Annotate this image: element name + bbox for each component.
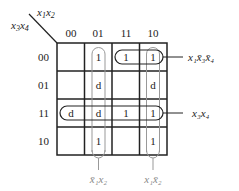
term-label-x1-x2bar: x₁x̄₂ — [143, 173, 162, 185]
col-header-01: 01 — [93, 27, 104, 39]
term-label-x1-x3bar-x4bar: x₁x̄₃x̄₄ — [187, 51, 214, 63]
term-label-x3-x4: x₃x₄ — [191, 107, 210, 119]
cell-r2-c2: 1 — [123, 107, 129, 119]
row-header-10: 10 — [38, 135, 50, 147]
col-header-00: 00 — [66, 27, 78, 39]
cell-r0-c3: 1 — [150, 51, 156, 63]
column-headers: 00 01 11 10 — [66, 27, 160, 39]
cell-r0-c2: 1 — [123, 51, 129, 63]
row-header-00: 00 — [38, 51, 50, 63]
term-label-x1bar-x2: x̄₁x₂ — [89, 173, 108, 185]
cell-r1-c1: d — [96, 79, 102, 91]
col-header-11: 11 — [121, 27, 132, 39]
row-variables-label: x3x4 — [10, 19, 29, 33]
row-headers: 00 01 11 10 — [38, 51, 50, 147]
cell-r2-c3: 1 — [150, 107, 156, 119]
cell-r1-c3: d — [150, 79, 156, 91]
cell-r3-c3: 1 — [150, 135, 156, 147]
cell-r2-c0: d — [68, 107, 74, 119]
row-header-11: 11 — [38, 107, 49, 119]
row-header-01: 01 — [38, 79, 49, 91]
karnaugh-map-diagram: x1x2 x3x4 00 01 11 10 00 01 11 10 — [0, 0, 239, 191]
cell-r0-c1: 1 — [96, 51, 102, 63]
col-variables-label: x1x2 — [36, 6, 55, 20]
col-header-10: 10 — [148, 27, 160, 39]
cell-r2-c1: d — [96, 107, 102, 119]
cell-r3-c1: 1 — [96, 135, 102, 147]
